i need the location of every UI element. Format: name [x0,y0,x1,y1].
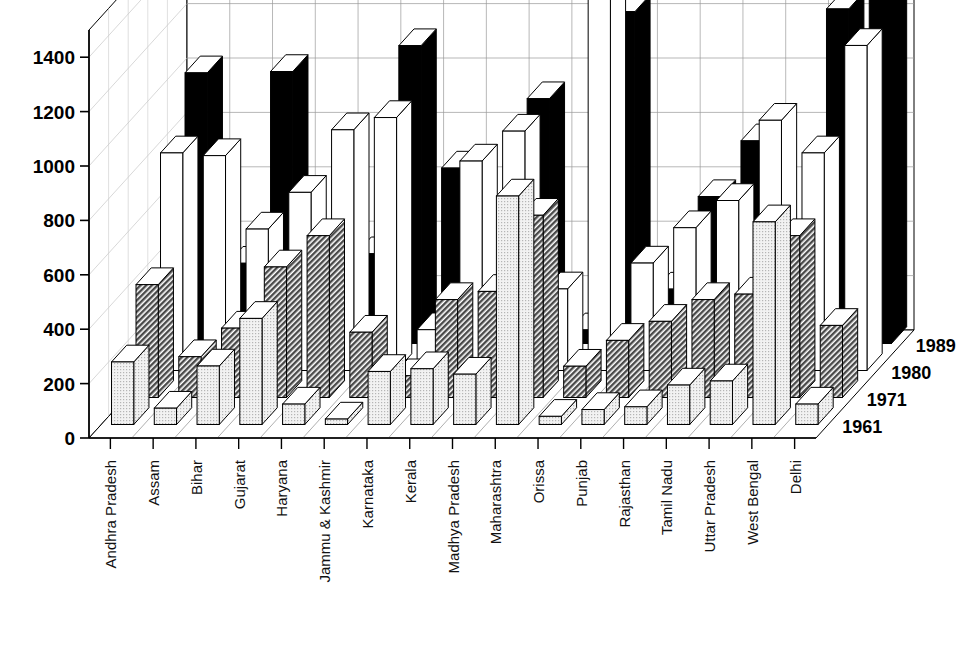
bar-front-face [820,325,842,397]
x-tick-label: West Bengal [744,460,761,545]
bar-side-face [775,205,790,424]
bar-front-face [667,385,689,424]
bar[interactable] [411,352,448,425]
bar-side-face [891,0,906,344]
bar-side-face [610,0,625,371]
y-tick-label: 0 [64,428,75,449]
bar-front-face [625,407,647,425]
bar-side-face [158,268,173,398]
bar-side-face [183,136,198,370]
bar-side-face [800,219,815,398]
y-tick-label: 1200 [33,102,75,123]
bar-chart-3d: 0200400600800100012001400Andhra PradeshA… [0,0,959,645]
bar-front-face [112,362,134,425]
bar[interactable] [606,324,643,398]
x-tick-label: Kerala [402,459,419,503]
y-tick-label: 1000 [33,156,75,177]
bar[interactable] [197,349,234,424]
bar[interactable] [753,205,790,424]
x-tick-label: Rajasthan [616,460,633,528]
x-tick-label: Delhi [787,460,804,494]
y-tick-label: 200 [43,374,75,395]
x-tick-label: Maharashtra [487,459,504,544]
x-tick-label: Madhya Pradesh [445,460,462,573]
bar-front-face [582,410,604,425]
bar-front-face [411,369,433,425]
bar-front-face [368,371,390,424]
x-tick-label: Uttar Pradesh [701,460,718,553]
bar-side-face [262,302,277,425]
bar[interactable] [454,357,491,424]
bar-side-face [397,101,412,371]
bar-front-face [325,419,347,424]
depth-axis-label: 1980 [891,363,931,383]
bar-side-face [867,29,882,371]
depth-axis-label: 1961 [842,417,882,437]
bar[interactable] [588,0,625,371]
bar-side-face [329,219,344,398]
bar-front-face [454,374,476,424]
bar[interactable] [368,355,405,425]
bar-front-face [197,366,219,424]
x-tick-label: Orissa [530,459,547,503]
bar-front-face [710,381,732,425]
bar-front-face [588,0,610,371]
bar[interactable] [240,302,277,425]
bar-side-face [543,199,558,398]
bar-front-face [240,318,262,424]
x-tick-label: Bihar [188,460,205,495]
bar[interactable] [307,219,344,398]
x-tick-label: Jammu & Kashmir [316,460,333,583]
depth-axis-label: 1989 [916,336,956,356]
bar-front-face [606,340,628,397]
bar-front-face [564,366,586,397]
x-tick-label: Tamil Nadu [658,460,675,535]
bar[interactable] [820,309,857,398]
bar-front-face [796,404,818,424]
y-tick-label: 400 [43,319,75,340]
x-tick-label: Haryana [273,459,290,516]
bar-front-face [154,408,176,424]
bar-front-face [753,222,775,425]
y-tick-label: 600 [43,265,75,286]
x-tick-label: Punjab [573,460,590,507]
bar-front-face [307,236,329,398]
x-tick-label: Assam [145,460,162,506]
bar[interactable] [112,345,149,424]
chart-container: 0200400600800100012001400Andhra PradeshA… [0,0,959,645]
bar-side-face [519,179,534,424]
bar-front-face [496,196,518,424]
x-tick-label: Gujarat [231,459,248,509]
bar-side-face [421,29,436,344]
bar-side-face [287,250,302,397]
x-tick-label: Andhra Pradesh [102,460,119,568]
bar-front-face [539,416,561,424]
bar[interactable] [496,179,533,424]
y-tick-label: 800 [43,210,75,231]
bar-front-face [283,404,305,424]
y-tick-label: 1400 [33,47,75,68]
depth-axis-label: 1971 [867,390,907,410]
x-tick-label: Karnataka [359,459,376,528]
